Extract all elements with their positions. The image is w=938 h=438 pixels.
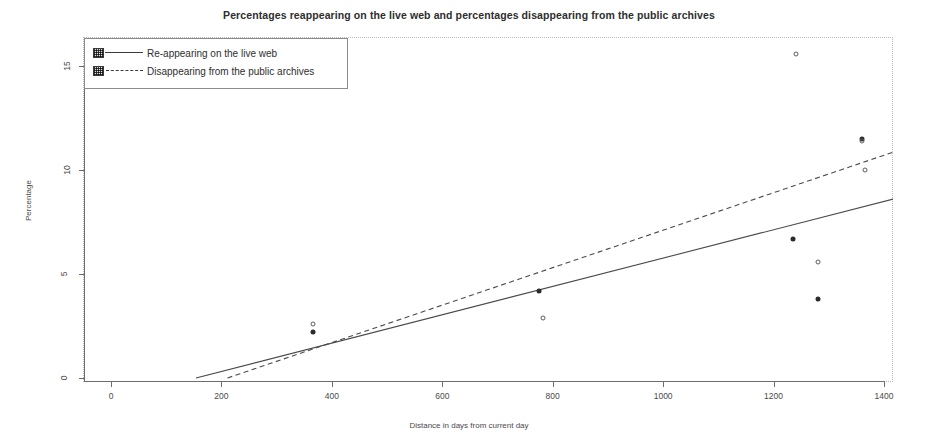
x-tick	[442, 382, 443, 387]
chart-legend: Re-appearing on the live web Disappearin…	[84, 38, 348, 89]
data-point-disappearing	[793, 51, 798, 56]
x-tick-label: 1400	[875, 391, 894, 401]
data-point-reappearing	[790, 236, 795, 241]
x-tick-label: 200	[214, 391, 228, 401]
y-tick-label: 15	[62, 61, 72, 70]
x-tick-label: 1200	[764, 391, 783, 401]
legend-entry-disappearing: Disappearing from the public archives	[93, 63, 314, 79]
x-tick-label: 0	[109, 391, 114, 401]
data-point-disappearing	[815, 259, 820, 264]
x-tick	[884, 382, 885, 387]
y-tick-label: 0	[59, 376, 69, 381]
y-axis-title: Percentage	[24, 161, 33, 241]
data-point-disappearing	[311, 321, 316, 326]
y-tick-label: 10	[62, 165, 72, 174]
legend-key-dashed	[93, 65, 143, 77]
data-point-disappearing	[859, 138, 864, 143]
chart-root: Percentages reappearing on the live web …	[0, 0, 938, 438]
legend-line-dashed-icon	[106, 70, 143, 71]
legend-key-solid	[93, 47, 143, 59]
x-tick	[774, 382, 775, 387]
data-point-reappearing	[536, 288, 541, 293]
legend-label-disappearing: Disappearing from the public archives	[143, 66, 314, 77]
data-point-reappearing	[816, 296, 821, 301]
x-tick-label: 400	[325, 391, 339, 401]
legend-entry-reappearing: Re-appearing on the live web	[93, 45, 277, 61]
y-axis-line	[84, 60, 85, 382]
data-point-disappearing	[541, 315, 546, 320]
legend-marker-icon	[93, 66, 104, 76]
x-tick-label: 1000	[654, 391, 673, 401]
x-tick	[111, 382, 112, 387]
x-tick	[663, 382, 664, 387]
y-tick-label: 5	[59, 272, 69, 277]
x-tick-label: 600	[435, 391, 449, 401]
x-axis-line	[85, 381, 885, 382]
data-point-reappearing	[311, 330, 316, 335]
x-tick	[332, 382, 333, 387]
x-tick	[553, 382, 554, 387]
legend-label-reappearing: Re-appearing on the live web	[143, 48, 277, 59]
x-axis-title: Distance in days from current day	[0, 421, 938, 430]
x-tick	[221, 382, 222, 387]
data-point-disappearing	[862, 168, 867, 173]
fit-line-reappearing	[196, 193, 917, 378]
x-tick-label: 800	[546, 391, 560, 401]
legend-line-solid-icon	[105, 52, 143, 53]
legend-marker-icon	[93, 48, 104, 58]
